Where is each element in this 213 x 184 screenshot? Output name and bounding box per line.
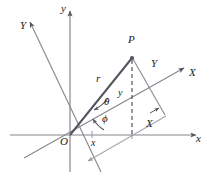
theta-angle-label: θ: [104, 96, 109, 107]
X-component-line: [88, 116, 166, 161]
diagram-canvas: [0, 0, 213, 184]
phi-angle-label: ϕ: [102, 113, 108, 124]
point-p-marker: [130, 56, 134, 60]
X-component-label: X: [146, 118, 153, 129]
geometry-figure: x y X Y O P r y x X Y θ ϕ: [0, 0, 213, 184]
point-p-label: P: [128, 34, 135, 45]
Y-component-line: [133, 59, 165, 115]
y-component-label: y: [118, 88, 122, 98]
rotated-Y-axis-line: [30, 22, 101, 172]
rotated-Y-axis-label: Y: [20, 20, 26, 31]
x-axis-label: x: [196, 133, 201, 144]
X-projection-tick: [150, 108, 159, 113]
origin-label: O: [60, 136, 68, 147]
y-axis-label: y: [61, 3, 66, 14]
rotated-X-axis-label: X: [189, 67, 196, 78]
x-component-label: x: [91, 138, 95, 148]
Y-component-label: Y: [151, 58, 157, 69]
radius-label: r: [96, 73, 100, 84]
radius-segment: [70, 58, 132, 135]
